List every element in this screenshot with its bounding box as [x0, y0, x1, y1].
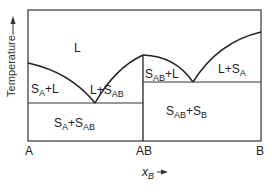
x-tick-ab: AB	[136, 145, 152, 157]
region-sab-l: SAB+L	[145, 68, 179, 80]
x-tick-a: A	[25, 145, 33, 157]
region-sab-sb: SAB+SB	[166, 105, 207, 117]
region-liquid: L	[74, 42, 81, 54]
y-axis-label: Temperature	[5, 21, 17, 111]
region-l-sab: L+SAB	[90, 84, 124, 96]
region-sa-l: SA+L	[31, 83, 59, 95]
x-tick-b: B	[256, 145, 264, 157]
x-axis-variable: xB	[142, 165, 154, 181]
region-l-sa: L+SA	[218, 63, 246, 75]
x-axis-arrow-icon	[161, 170, 168, 175]
region-sa-sab: SA+SAB	[54, 117, 95, 129]
